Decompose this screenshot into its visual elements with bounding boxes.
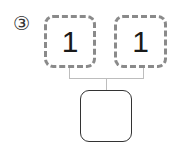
problem-label: ③ (13, 14, 30, 33)
top-box-left: 1 (44, 15, 96, 68)
connector-center-vertical (106, 78, 107, 90)
top-box-left-value: 1 (62, 27, 79, 57)
answer-box[interactable] (80, 90, 132, 142)
top-box-right-value: 1 (132, 27, 149, 57)
top-box-right: 1 (114, 15, 167, 68)
